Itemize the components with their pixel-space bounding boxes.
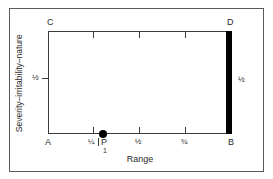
- y-tick-label-half: ½: [32, 74, 39, 82]
- x-tick-label-half: ½: [132, 138, 144, 146]
- corner-label-b: B: [228, 138, 234, 147]
- bar-at-b: [226, 31, 232, 134]
- x-axis-title: Range: [48, 155, 232, 164]
- tick-top-three-quarter: [185, 32, 186, 38]
- point-label-p: P: [101, 138, 107, 147]
- point-label-subscript: 1: [103, 147, 107, 154]
- bar-value-label: ½: [238, 76, 245, 84]
- tick-top-quarter: [93, 32, 94, 38]
- tick-top-half: [139, 32, 140, 38]
- tick-bottom-quarter: [93, 127, 94, 133]
- corner-label-d: D: [227, 18, 234, 27]
- tick-left-half: [42, 78, 49, 79]
- tick-bottom-three-quarter: [185, 127, 186, 133]
- plot-area-box: [48, 31, 232, 134]
- figure-container: C D A B ¼ ½ ¾ ½ ½ P 1 Range Severity–irr…: [0, 0, 273, 179]
- x-tick-label-quarter: ¼: [85, 138, 97, 146]
- corner-label-a: A: [45, 138, 51, 147]
- y-axis-title: Severity–irritability–nature: [15, 23, 24, 143]
- tick-bottom-half: [139, 127, 140, 133]
- corner-label-c: C: [47, 18, 54, 27]
- x-tick-label-three-quarter: ¾: [178, 138, 190, 146]
- p1-separator-mark: [98, 138, 99, 146]
